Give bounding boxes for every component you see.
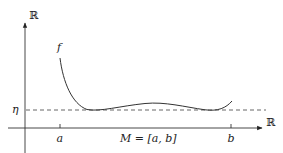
x-axis-label: ℝ xyxy=(266,116,276,129)
eta-label: η xyxy=(12,103,19,116)
interval-label: M = [a, b] xyxy=(119,132,177,145)
tick-a-label: a xyxy=(57,132,64,145)
y-axis-label: ℝ xyxy=(29,9,39,22)
function-curve xyxy=(60,58,232,110)
function-label: f xyxy=(56,41,63,54)
diagram-canvas: ℝ ℝ f η a b M = [a, b] xyxy=(0,0,283,153)
tick-b-label: b xyxy=(228,132,235,145)
